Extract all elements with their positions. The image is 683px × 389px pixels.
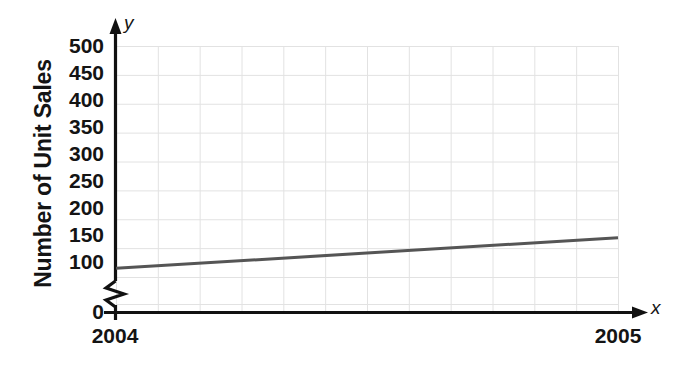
plot-area: [0, 0, 683, 389]
y-axis-break-zigzag: [106, 281, 124, 307]
x-axis-arrowhead: [632, 307, 648, 319]
vertical-gridlines: [117, 46, 619, 312]
chart-container: Number of Unit Sales 500 450 400 350 300…: [0, 0, 683, 389]
y-axis-arrowhead: [110, 18, 122, 34]
